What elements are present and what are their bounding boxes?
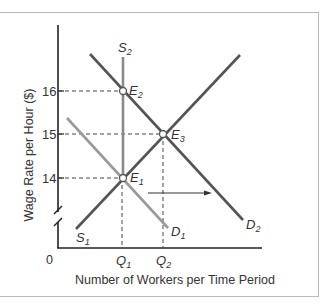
y-tick-16: 16	[42, 84, 56, 99]
curve-d2	[90, 54, 243, 220]
y-axis-label: Wage Rate per Hour ($)	[22, 89, 36, 222]
label-s1: S1	[76, 230, 90, 247]
labor-market-chart: 16 15 14 Wage Rate per Hour ($) 0 Q1 Q2 …	[0, 0, 335, 305]
point-e3	[160, 131, 167, 138]
label-d2: D2	[246, 217, 260, 234]
origin-label: 0	[46, 253, 53, 267]
label-d1: D1	[171, 224, 185, 241]
label-e1: E1	[130, 170, 144, 187]
x-axis-label: Number of Workers per Time Period	[75, 273, 275, 287]
label-e3: E3	[171, 127, 185, 144]
curve-s1	[76, 55, 240, 229]
demand-shift-arrow-icon	[148, 191, 212, 196]
label-s2: S2	[118, 40, 132, 57]
y-tick-15: 15	[42, 127, 56, 142]
point-e2	[120, 88, 127, 95]
y-tick-14: 14	[42, 171, 56, 186]
point-e1	[120, 175, 127, 182]
x-tick-q2: Q2	[156, 253, 171, 270]
label-e2: E2	[129, 83, 143, 100]
x-tick-q1: Q1	[116, 253, 131, 270]
